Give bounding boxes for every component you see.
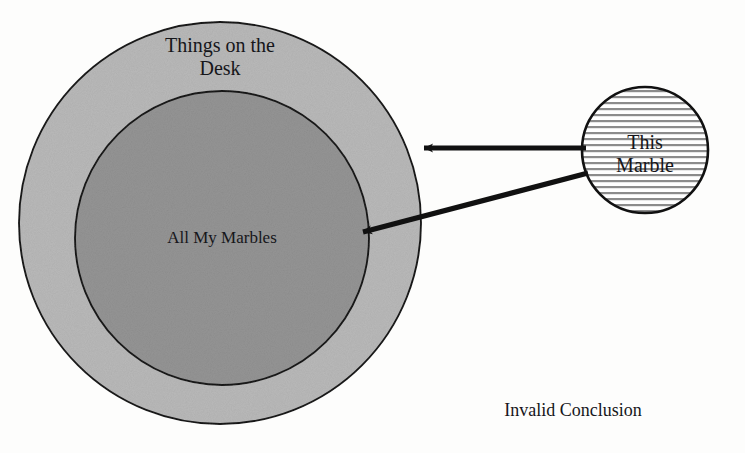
conclusion-caption: Invalid Conclusion	[468, 400, 678, 421]
euler-diagram-graphic	[0, 0, 745, 453]
inner-set-label: All My Marbles	[122, 228, 322, 248]
marble-set-label: This Marble	[595, 131, 695, 177]
diagram-canvas: Things on the Desk All My Marbles This M…	[0, 0, 745, 453]
outer-set-label: Things on the Desk	[130, 34, 310, 80]
